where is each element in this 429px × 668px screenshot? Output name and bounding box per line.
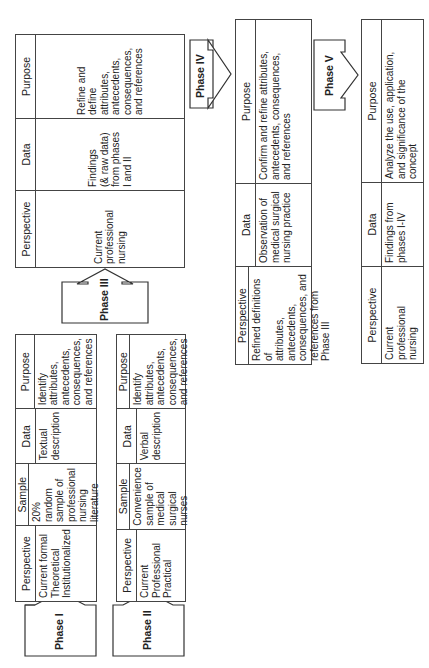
column-header: Data	[362, 183, 382, 266]
phase-3-arrow: Phase III	[62, 267, 148, 323]
column-purpose: Purpose Confirm and refine attributes, a…	[236, 20, 311, 184]
table-cell: Findings (& raw data) from phases I and …	[36, 119, 184, 190]
column-header: Purpose	[362, 20, 382, 182]
phase-2-table: Perspective Current Professional Practic…	[116, 334, 186, 602]
column-purpose: Purpose Analyze the use, application, an…	[362, 20, 423, 183]
table-cell: Current Professional Practical	[137, 530, 185, 601]
column-perspective: Perspective Current professional nursing	[362, 267, 423, 363]
table-cell: Confirm and refine attributes, anteceden…	[256, 20, 311, 183]
column-purpose: Purpose Refine and define attributes, an…	[16, 35, 184, 119]
column-header: Purpose	[117, 335, 130, 408]
column-header: Data	[16, 119, 36, 190]
column-purpose: Purpose Identify attributes, antecedents…	[117, 335, 185, 409]
phase-5-table: Perspective Current professional nursing…	[361, 19, 424, 364]
column-header: Perspective	[16, 191, 36, 267]
column-header: Perspective	[117, 530, 137, 601]
column-header: Purpose	[16, 335, 35, 408]
column-header: Perspective	[16, 526, 36, 601]
column-sample: Sample 20% random sample of professional…	[16, 464, 96, 526]
phase-5-arrow: Phase V	[314, 40, 358, 110]
column-header: Perspective	[236, 267, 249, 364]
column-data: Data Observation of medical surgical nur…	[236, 184, 311, 267]
column-data: Data Findings from phases I-IV	[362, 183, 423, 267]
phase-5-label: Phase V	[323, 55, 335, 96]
column-header: Data	[117, 409, 137, 463]
table-cell: Current formal Theoretical Institutional…	[36, 526, 96, 601]
column-data: Data Findings (& raw data) from phases I…	[16, 119, 184, 191]
table-cell: Identify attributes, antecedents, conseq…	[130, 335, 192, 408]
table-cell: Verbal description	[137, 409, 185, 463]
column-perspective: Perspective Refined definitions of attri…	[236, 267, 311, 364]
column-header: Purpose	[16, 35, 36, 118]
phase-4-arrow: Phase IV	[190, 40, 232, 108]
column-header: Data	[16, 409, 36, 463]
phase-3-label: Phase III	[98, 278, 110, 321]
table-cell: Convenience sample of medical surgical n…	[130, 464, 192, 528]
phase-4-label: Phase IV	[194, 54, 206, 98]
table-cell: Refine and define attributes, antecedent…	[36, 35, 184, 118]
table-cell: Identify attributes, antecedents, conseq…	[35, 335, 97, 408]
phase-1-table: Perspective Current formal Theoretical I…	[15, 334, 97, 602]
column-header: Data	[236, 184, 256, 266]
table-cell: Observation of medical surgical nursing …	[256, 184, 311, 266]
phase-1-label: Phase I	[53, 613, 65, 650]
table-cell: Findings from phases I-IV	[382, 183, 423, 266]
column-header: Purpose	[236, 20, 256, 183]
table-cell: Refined definitions of attributes, antec…	[249, 267, 334, 364]
table-cell: Current professional nursing	[36, 191, 184, 267]
column-header: Perspective	[362, 267, 382, 363]
block-arrow-icon	[314, 40, 358, 110]
column-perspective: Perspective Current Professional Practic…	[117, 530, 185, 601]
table-cell: Current professional nursing	[382, 267, 423, 363]
column-perspective: Perspective Current formal Theoretical I…	[16, 526, 96, 601]
phase-2-label: Phase II	[141, 610, 153, 650]
column-header: Sample	[117, 464, 130, 528]
concept-analysis-diagram: Phase I Perspective Current formal Theor…	[0, 0, 429, 668]
column-data: Data Textual description	[16, 409, 96, 464]
column-data: Data Verbal description	[117, 409, 185, 464]
table-cell: Analyze the use, application, and signif…	[382, 20, 423, 182]
column-purpose: Purpose Identify attributes, antecedents…	[16, 335, 96, 409]
column-perspective: Perspective Current professional nursing	[16, 191, 184, 267]
column-header: Sample	[16, 464, 29, 525]
phase-3-table: Perspective Current professional nursing…	[15, 34, 185, 268]
phase-4-table: Perspective Refined definitions of attri…	[235, 19, 312, 365]
table-cell: 20% random sample of professional nursin…	[29, 464, 102, 525]
column-sample: Sample Convenience sample of medical sur…	[117, 464, 185, 529]
table-cell: Textual description	[36, 409, 96, 463]
